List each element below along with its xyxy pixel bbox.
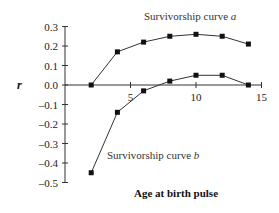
data-point-marker: [89, 170, 94, 175]
y-tick-label: –0.3: [38, 138, 59, 150]
y-tick-label: 0.2: [44, 40, 58, 52]
y-tick-label: –0.2: [38, 118, 58, 130]
chart: 0.30.20.10.0–0.1–0.2–0.3–0.4–0.551015 Su…: [0, 0, 279, 213]
y-tick-label: 0.0: [44, 79, 58, 91]
axes: 0.30.20.10.0–0.1–0.2–0.3–0.4–0.551015: [38, 21, 268, 189]
annotation-curve-a: Survivorship curve a: [144, 10, 237, 22]
data-point-marker: [141, 88, 146, 93]
y-tick-label: –0.4: [38, 157, 59, 169]
series-line-a: [91, 34, 248, 85]
data-point-marker: [194, 32, 199, 37]
y-tick-label: –0.1: [38, 99, 58, 111]
data-point-marker: [246, 83, 251, 88]
y-tick-label: 0.3: [44, 21, 58, 33]
y-tick-label: 0.1: [44, 60, 58, 72]
data-point-marker: [115, 110, 120, 115]
data-point-marker: [220, 34, 225, 39]
x-tick-label: 15: [256, 91, 268, 103]
x-axis-label: Age at birth pulse: [134, 187, 218, 199]
data-point-marker: [89, 83, 94, 88]
data-point-marker: [167, 79, 172, 84]
y-axis-label: r: [17, 78, 22, 92]
data-point-marker: [246, 42, 251, 47]
x-tick-label: 10: [191, 91, 203, 103]
data-point-marker: [115, 49, 120, 54]
data-point-marker: [141, 40, 146, 45]
data-point-marker: [220, 73, 225, 78]
y-tick-label: –0.5: [38, 177, 59, 189]
annotation-curve-b: Survivorship curve b: [107, 149, 200, 161]
data-point-marker: [167, 34, 172, 39]
data-point-marker: [194, 73, 199, 78]
